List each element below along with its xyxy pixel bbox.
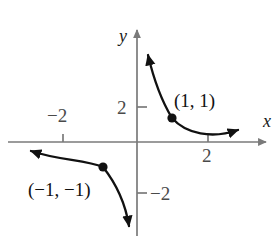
y-tick-label-neg2: −2 <box>150 184 170 203</box>
point-label-1-1: (1, 1) <box>174 91 215 110</box>
data-point-neg1-neg1 <box>98 162 107 171</box>
x-tick-label-pos2: 2 <box>202 146 212 165</box>
point-label-neg1-neg1: (−1, −1) <box>28 180 91 199</box>
x-tick-label-neg2: −2 <box>47 106 67 125</box>
y-axis-label: y <box>119 27 127 45</box>
data-point-1-1 <box>167 113 176 122</box>
plot-canvas <box>0 0 278 241</box>
hyperbola-graph-figure: y x −2 2 2 −2 (1, 1) (−1, −1) <box>0 0 278 241</box>
x-axis-label: x <box>263 112 271 130</box>
y-axis <box>137 30 147 236</box>
y-tick-label-pos2: 2 <box>117 98 127 117</box>
